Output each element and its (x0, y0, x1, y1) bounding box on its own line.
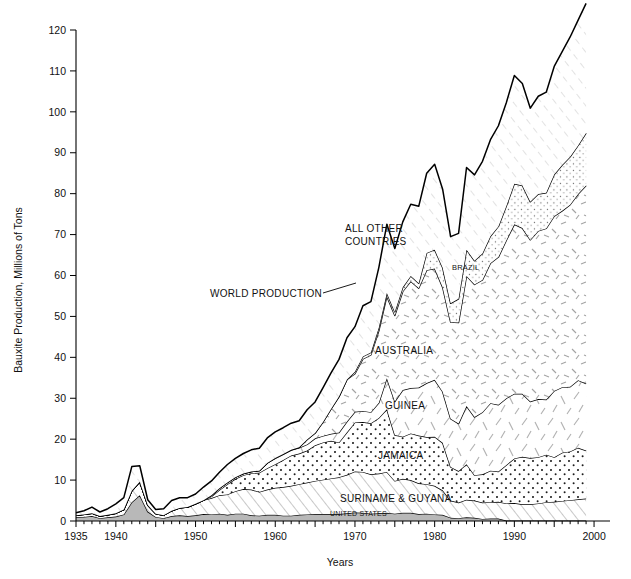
stacked-area-series-group (76, 3, 586, 521)
y-tick-label: 10 (54, 474, 66, 486)
series-label-australia: AUSTRALIA (375, 345, 433, 356)
y-tick-label: 80 (54, 187, 66, 199)
y-tick-label: 100 (48, 106, 66, 118)
series-label-guinea: GUINEA (385, 400, 425, 411)
x-tick-label: 1960 (264, 530, 288, 542)
x-tick-label: 1950 (184, 530, 208, 542)
chart-figure: 0102030405060708090100110120193519401950… (0, 0, 631, 579)
x-tick-label: 1980 (423, 530, 447, 542)
series-label-world-production: WORLD PRODUCTION (210, 288, 322, 299)
y-tick-label: 0 (60, 515, 66, 527)
y-tick-label: 20 (54, 433, 66, 445)
y-tick-label: 30 (54, 392, 66, 404)
bauxite-production-stacked-area-chart: 0102030405060708090100110120193519401950… (0, 0, 631, 579)
y-tick-label: 120 (48, 24, 66, 36)
x-tick-label: 1940 (104, 530, 128, 542)
world-production-leader-line (323, 283, 356, 293)
x-axis-title: Years (327, 556, 353, 568)
x-tick-label: 1970 (343, 530, 367, 542)
x-tick-label: 1935 (64, 530, 88, 542)
y-tick-label: 90 (54, 146, 66, 158)
y-tick-label: 110 (49, 65, 66, 77)
series-label-jamaica: JAMAICA (378, 450, 423, 461)
series-label-all-other-countries: ALL OTHERCOUNTRIES (345, 223, 407, 247)
x-tick-label: 1990 (503, 530, 527, 542)
series-label-suriname-guyana: SURINAME & GUYANA (340, 493, 452, 504)
y-axis-title: Bauxite Production, Millions of Tons (12, 207, 24, 373)
y-tick-label: 60 (54, 269, 66, 281)
y-tick-label: 70 (54, 228, 66, 240)
y-tick-label: 40 (54, 351, 66, 363)
series-label-united-states: UNITED STATES (330, 510, 387, 517)
y-tick-label: 50 (54, 310, 66, 322)
x-tick-label: 2000 (582, 530, 606, 542)
series-label-brazil: BRAZIL (452, 263, 479, 272)
